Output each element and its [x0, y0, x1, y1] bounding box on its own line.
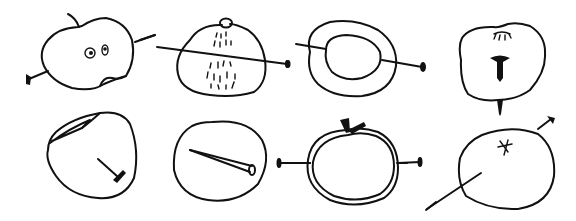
- illustration-canvas: [0, 0, 576, 221]
- panel-apple-face: [26, 14, 155, 89]
- panel-peach-dashes: [140, 19, 291, 97]
- sketch-sheet: [0, 0, 576, 221]
- panel-double-ring: [285, 21, 426, 96]
- panel-apple-nail-head: [460, 23, 545, 116]
- panel-apple-wedge: [47, 112, 136, 198]
- panel-fruit-star: [426, 116, 555, 210]
- panel-circle-nail: [174, 121, 310, 200]
- panel-tomato-double: [285, 118, 423, 205]
